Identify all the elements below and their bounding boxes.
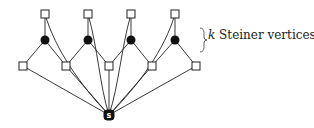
steiner-annotation: k Steiner vertices <box>208 28 314 42</box>
edge <box>109 66 196 115</box>
curved-edge <box>45 14 109 115</box>
annotation-text: Steiner vertices <box>219 28 314 42</box>
steiner-vertex <box>41 36 50 45</box>
variable-k: k <box>208 28 215 42</box>
steiner-vertex <box>84 36 93 45</box>
source-label: s <box>107 111 112 120</box>
steiner-vertex <box>171 36 180 45</box>
curved-edge <box>109 14 175 115</box>
terminal-node <box>127 10 135 18</box>
steiner-vertex <box>127 36 136 45</box>
edge <box>23 66 109 115</box>
steiner-tree-diagram: s <box>0 0 314 128</box>
terminal-node <box>62 62 70 70</box>
terminal-node <box>171 10 179 18</box>
terminal-node <box>105 62 113 70</box>
terminal-node <box>41 10 49 18</box>
terminal-node <box>192 62 200 70</box>
terminal-node <box>19 62 27 70</box>
terminal-node <box>148 62 156 70</box>
brace-icon <box>200 28 207 52</box>
terminal-node <box>84 10 92 18</box>
